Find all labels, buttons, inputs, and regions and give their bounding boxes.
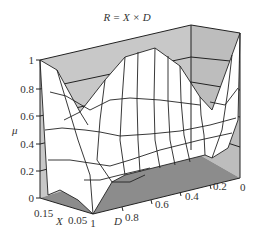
z-tick-0.8: 0.8 — [20, 83, 34, 95]
z-tick-0.4: 0.4 — [20, 138, 34, 150]
d-tick-0.6: 0.6 — [155, 198, 169, 210]
z-axis-label: μ — [11, 124, 18, 136]
surface-plot: 1 0.8 0.6 0.4 0.2 0 μ 0.15 X 0.05 1 D 0.… — [0, 0, 256, 237]
d-tick-0.2: 0.2 — [213, 180, 227, 192]
d-tick-1: 1 — [90, 217, 96, 229]
d-tick-0.4: 0.4 — [185, 190, 199, 202]
d-axis-label: D — [113, 215, 122, 227]
z-tick-0.6: 0.6 — [20, 110, 34, 122]
z-tick-0: 0 — [29, 192, 35, 204]
x-axis-label: X — [55, 215, 64, 227]
z-ticks — [36, 60, 40, 198]
d-tick-0: 0 — [240, 181, 246, 193]
x-tick-0.15: 0.15 — [34, 207, 54, 219]
z-tick-1: 1 — [29, 54, 35, 66]
z-tick-0.2: 0.2 — [20, 165, 34, 177]
d-tick-0.8: 0.8 — [125, 211, 139, 223]
x-tick-0.05: 0.05 — [68, 214, 88, 226]
chart-title: R = X × D — [102, 11, 150, 23]
